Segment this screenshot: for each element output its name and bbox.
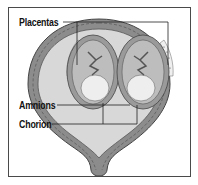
label-placentas: Placentas	[19, 17, 59, 28]
label-amnions: Amnions	[19, 100, 55, 111]
label-chorion: Chorion	[19, 119, 52, 130]
fetus-right-body	[127, 75, 155, 101]
fetus-left-body	[81, 75, 109, 101]
